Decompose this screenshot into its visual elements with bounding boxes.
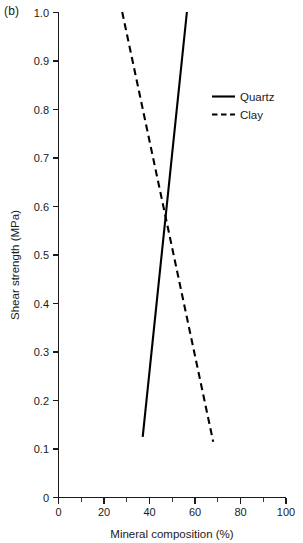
legend-label-quartz: Quartz (240, 91, 275, 103)
y-tick-label: 0 (43, 492, 49, 504)
y-tick-label: 1.0 (34, 7, 49, 19)
x-tick-label: 0 (55, 506, 61, 518)
x-tick-label: 20 (98, 506, 110, 518)
x-minor-tick-marks (81, 498, 263, 502)
y-tick-label: 0.6 (34, 201, 49, 213)
series-line-clay (122, 12, 213, 442)
chart-plot: 1.0 0.9 0.8 0.7 0.6 0.5 0.4 0.3 0.2 0.1 … (0, 0, 303, 543)
y-tick-label: 0.1 (34, 443, 49, 455)
x-tick-labels: 0 20 40 60 80 100 (55, 506, 295, 518)
y-tick-label: 0.8 (34, 104, 49, 116)
y-tick-label: 0.4 (34, 298, 49, 310)
y-tick-label: 0.9 (34, 55, 49, 67)
x-tick-label: 100 (277, 506, 295, 518)
x-tick-label: 60 (189, 506, 201, 518)
series-line-quartz (143, 12, 187, 437)
y-tick-label: 0.2 (34, 395, 49, 407)
y-tick-marks (53, 13, 59, 498)
chart-legend: Quartz Clay (212, 91, 275, 121)
figure-container: (b) 1.0 0.9 0.8 0.7 0. (0, 0, 303, 543)
y-tick-label: 0.3 (34, 346, 49, 358)
y-axis-title: Shear strength (MPa) (9, 210, 21, 320)
legend-label-clay: Clay (240, 109, 263, 121)
y-tick-label: 0.7 (34, 152, 49, 164)
y-tick-label: 0.5 (34, 249, 49, 261)
x-axis-title: Mineral composition (%) (110, 528, 234, 540)
x-tick-label: 40 (143, 506, 155, 518)
x-tick-label: 80 (234, 506, 246, 518)
y-tick-labels: 1.0 0.9 0.8 0.7 0.6 0.5 0.4 0.3 0.2 0.1 … (34, 7, 49, 504)
